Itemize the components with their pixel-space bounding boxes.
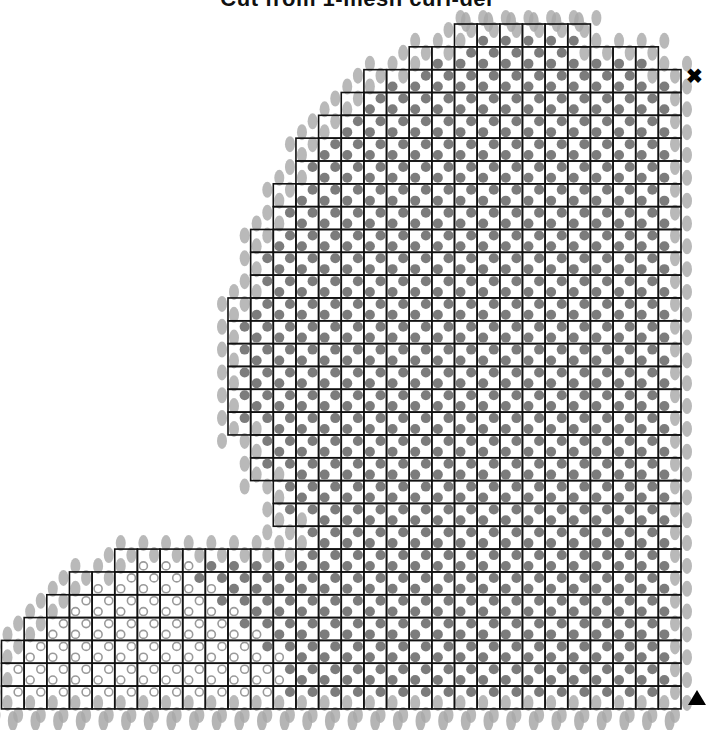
mesh-grid xyxy=(0,0,713,730)
cross-marker-icon: ✖ xyxy=(686,66,703,86)
grid-lines xyxy=(2,24,682,709)
triangle-marker-icon xyxy=(688,690,706,705)
